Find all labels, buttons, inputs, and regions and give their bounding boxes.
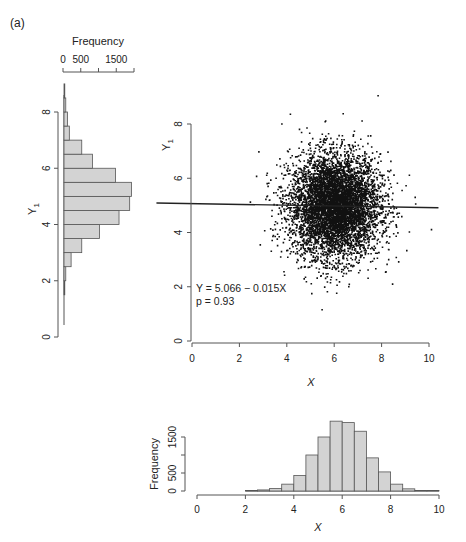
tick-label: 1500 (105, 54, 128, 65)
tick-label: 4 (284, 353, 290, 364)
tick-label: 8 (41, 109, 52, 115)
histogram-bar (64, 112, 68, 126)
tick-label: 4 (291, 504, 297, 515)
histogram-bar (342, 423, 354, 491)
x-marginal-histogram: 0246810 05001500 Frequency X (148, 421, 445, 533)
tick-label: 6 (339, 504, 345, 515)
tick-label: 6 (173, 175, 184, 181)
tick-label: 0 (60, 54, 66, 65)
histogram-bar (64, 182, 131, 196)
histogram-bar (64, 84, 65, 98)
tick-label: 4 (173, 229, 184, 235)
histogram-bar (330, 421, 342, 491)
regression-equation: Y = 5.066 − 0.015X (196, 282, 286, 294)
panel-label: (a) (10, 16, 25, 30)
bottom-hist-y-axis: 05001500 (167, 425, 185, 493)
histogram-bar (64, 154, 92, 168)
histogram-bar (64, 239, 82, 253)
p-value: p = 0.93 (196, 295, 234, 307)
histogram-bar (379, 472, 391, 491)
figure: (a) Frequency 05001500 02468 Y1 0246810 … (0, 0, 466, 542)
x-histogram-bars (245, 421, 439, 491)
y1-axis-left: 02468 (41, 109, 58, 340)
histogram-bar (306, 455, 318, 491)
y-marginal-histogram: Frequency 05001500 02468 Y1 (26, 35, 134, 340)
bottom-hist-x-axis: 0246810 (194, 495, 445, 515)
histogram-bar (64, 168, 115, 182)
tick-label: 500 (167, 464, 178, 481)
tick-label: 2 (243, 504, 249, 515)
tick-label: 10 (423, 353, 435, 364)
histogram-bar (318, 437, 330, 491)
histogram-bar (64, 253, 71, 267)
tick-label: 1500 (167, 425, 178, 448)
scatter-plot: 0246810 02468 Y1 X Y = 5.066 − 0.015X p … (156, 95, 438, 388)
histogram-bar (427, 490, 439, 491)
tick-label: 2 (237, 353, 243, 364)
scatter-points (250, 95, 433, 311)
frequency-axis-top: 05001500 (60, 54, 134, 72)
histogram-bar (258, 490, 270, 491)
tick-label: 6 (41, 165, 52, 171)
tick-label: 0 (194, 504, 200, 515)
tick-label: 10 (433, 504, 445, 515)
histogram-bar (294, 476, 306, 491)
tick-label: 500 (72, 54, 89, 65)
figure-canvas: (a) Frequency 05001500 02468 Y1 0246810 … (0, 0, 466, 542)
bottom-hist-xlabel: X (313, 521, 322, 533)
left-hist-ylabel: Y1 (26, 203, 41, 215)
tick-label: 0 (189, 353, 195, 364)
tick-label: 4 (41, 221, 52, 227)
histogram-bar (270, 488, 282, 491)
scatter-point-cloud (250, 95, 433, 311)
scatter-y-axis: 02468 (173, 121, 191, 344)
bottom-hist-ylabel: Frequency (148, 438, 160, 490)
histogram-bar (391, 484, 403, 491)
histogram-bar (403, 489, 415, 491)
tick-label: 2 (173, 284, 184, 290)
histogram-bar (415, 490, 427, 491)
histogram-bar (282, 484, 294, 491)
histogram-bar (64, 267, 66, 281)
tick-label: 0 (167, 488, 178, 494)
histogram-bar (354, 431, 366, 491)
histogram-bar (64, 196, 130, 210)
histogram-bar (64, 126, 69, 140)
tick-label: 6 (331, 353, 337, 364)
histogram-bar (64, 281, 65, 295)
histogram-bar (64, 140, 82, 154)
tick-label: 2 (41, 278, 52, 284)
tick-label: 8 (173, 121, 184, 127)
tick-label: 0 (173, 338, 184, 344)
scatter-xlabel: X (306, 376, 315, 388)
histogram-bar (366, 458, 378, 491)
tick-label: 0 (41, 334, 52, 340)
histogram-bar (64, 98, 66, 112)
tick-label: 8 (388, 504, 394, 515)
top-axis-title: Frequency (72, 35, 124, 47)
histogram-bar (64, 225, 100, 239)
scatter-x-axis: 0246810 (189, 343, 435, 364)
histogram-bar (64, 210, 119, 224)
tick-label: 8 (379, 353, 385, 364)
scatter-ylabel: Y1 (160, 139, 175, 151)
histogram-bar (245, 490, 257, 491)
y-histogram-bars (64, 84, 131, 325)
